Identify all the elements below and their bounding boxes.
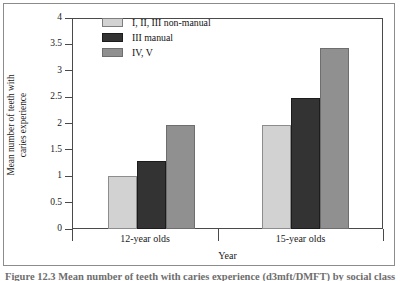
legend-label: IV, V <box>132 48 153 58</box>
x-axis-category-label: 12-year olds <box>72 233 218 244</box>
y-axis-tick-label: 3 <box>22 66 62 76</box>
legend: I, II, III non-manualIII manualIV, V <box>102 15 211 60</box>
bar <box>108 176 137 229</box>
legend-label: I, II, III non-manual <box>132 18 211 28</box>
bar <box>320 48 349 229</box>
bar <box>262 125 291 229</box>
bar <box>291 98 320 229</box>
legend-item: IV, V <box>102 45 211 60</box>
y-axis-tick-label: 0.5 <box>22 198 62 208</box>
x-axis-tick <box>383 229 384 241</box>
y-axis-tick-label: 2.5 <box>22 92 62 102</box>
y-axis-tick-label: 1 <box>22 171 62 181</box>
y-axis-tick-label: 3.5 <box>22 39 62 49</box>
x-axis-category-label: 15-year olds <box>218 233 383 244</box>
legend-label: III manual <box>132 33 173 43</box>
y-axis-tick-label: 2 <box>22 119 62 129</box>
bar <box>137 161 166 229</box>
x-axis-title: Year <box>72 250 383 261</box>
legend-item: I, II, III non-manual <box>102 15 211 30</box>
y-axis-tick-label: 0 <box>22 224 62 234</box>
legend-swatch <box>102 48 123 57</box>
y-axis-title-line-1: Mean number of teeth with <box>6 40 18 210</box>
figure-container: Mean number of teeth with caries experie… <box>0 0 401 281</box>
y-axis-tick-label: 1.5 <box>22 145 62 155</box>
legend-item: III manual <box>102 30 211 45</box>
legend-swatch <box>102 33 123 42</box>
bar <box>166 125 195 229</box>
y-axis-tick-label: 4 <box>22 13 62 23</box>
legend-swatch <box>102 18 123 27</box>
figure-caption: Figure 12.3 Mean number of teeth with ca… <box>5 271 397 281</box>
